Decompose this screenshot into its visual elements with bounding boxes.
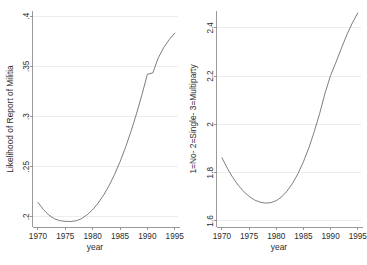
x-tick-label: 1985 bbox=[294, 232, 313, 241]
y-tick-label: 1.8 bbox=[207, 167, 216, 179]
y-tick-label: .35 bbox=[23, 60, 32, 72]
x-tick-label: 1990 bbox=[138, 232, 157, 241]
y-axis-title-right: 1=No- 2=Single- 3=Multiparty bbox=[188, 64, 198, 174]
x-axis-title-left: year bbox=[87, 242, 104, 252]
x-tick-label: 1990 bbox=[321, 232, 340, 241]
chart-svg-right: 1.61.822.22.4 197019751980198519901995 y… bbox=[184, 0, 367, 265]
data-curve-right bbox=[222, 13, 358, 203]
x-tick-label: 1980 bbox=[84, 232, 103, 241]
gridlines-left bbox=[33, 16, 179, 217]
x-tick-label: 1995 bbox=[349, 232, 367, 241]
figure-container: .2.25.3.35.4 197019751980198519901995 ye… bbox=[0, 0, 367, 265]
chart-panel-right: 1.61.822.22.4 197019751980198519901995 y… bbox=[184, 0, 367, 265]
y-tick-label: .4 bbox=[23, 12, 32, 19]
data-curve-left bbox=[38, 33, 175, 221]
y-ticks-left: .2.25.3.35.4 bbox=[23, 12, 33, 220]
y-tick-label: 2.4 bbox=[207, 22, 216, 34]
y-ticks-right: 1.61.822.22.4 bbox=[207, 22, 217, 227]
y-tick-label: .2 bbox=[23, 213, 32, 220]
chart-svg-left: .2.25.3.35.4 197019751980198519901995 ye… bbox=[0, 0, 184, 265]
x-ticks-right: 197019751980198519901995 bbox=[213, 227, 367, 241]
x-tick-label: 1980 bbox=[267, 232, 286, 241]
x-tick-label: 1985 bbox=[111, 232, 130, 241]
y-tick-label: 1.6 bbox=[207, 215, 216, 227]
gridlines-right bbox=[217, 28, 362, 221]
x-ticks-left: 197019751980198519901995 bbox=[29, 227, 184, 241]
x-axis-title-right: year bbox=[271, 242, 288, 252]
y-axis-title-left: Likelihood of Report of Militia bbox=[5, 65, 15, 173]
x-tick-label: 1970 bbox=[213, 232, 232, 241]
x-tick-label: 1970 bbox=[29, 232, 48, 241]
x-tick-label: 1975 bbox=[240, 232, 259, 241]
y-tick-label: 2 bbox=[207, 122, 216, 127]
chart-panel-left: .2.25.3.35.4 197019751980198519901995 ye… bbox=[0, 0, 184, 265]
x-tick-label: 1975 bbox=[56, 232, 75, 241]
y-tick-label: .25 bbox=[23, 161, 32, 173]
x-tick-label: 1995 bbox=[166, 232, 184, 241]
y-tick-label: 2.2 bbox=[207, 70, 216, 82]
y-tick-label: .3 bbox=[23, 113, 32, 120]
